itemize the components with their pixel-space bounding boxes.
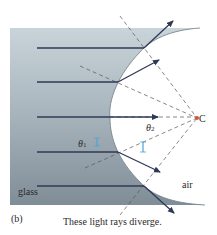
theta1-label: θ1 <box>78 138 86 149</box>
refraction-diagram <box>0 0 217 235</box>
air-label: air <box>182 179 193 190</box>
panel-label: (b) <box>11 213 23 224</box>
glass-label: glass <box>18 186 38 197</box>
center-label: C <box>199 113 206 124</box>
figure-caption: These light rays diverge. <box>63 216 162 227</box>
theta2-label: θ2 <box>146 122 154 133</box>
